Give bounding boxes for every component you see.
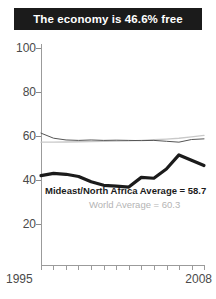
- series-line-country: [41, 155, 204, 187]
- chart-plot-area: 100 80 60 40 20: [0, 36, 216, 276]
- annotation-regional-average: Mideast/North Africa Average = 58.7: [45, 185, 206, 196]
- chart-series-canvas: [0, 36, 216, 276]
- annotation-world-average: World Average = 60.3: [89, 199, 180, 210]
- series-line-world-average: [41, 135, 204, 142]
- chart-screenshot: The economy is 46.6% free 100 80 60 40 2…: [0, 0, 216, 299]
- chart-title-banner: The economy is 46.6% free: [14, 8, 202, 30]
- page-title: The economy is 46.6% free: [33, 13, 183, 25]
